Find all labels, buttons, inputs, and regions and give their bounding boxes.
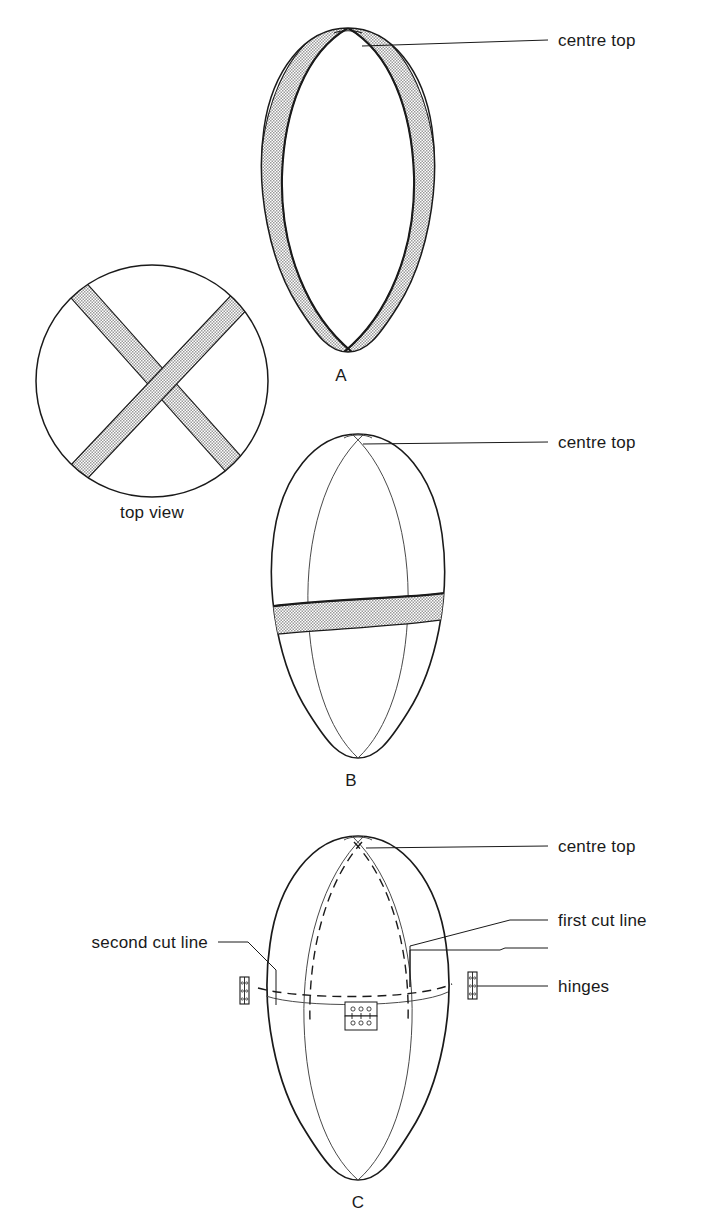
- top-view-bands: [64, 278, 256, 478]
- diagram-root: centre top A top view: [0, 0, 704, 1222]
- hinge-centre: [345, 1002, 377, 1030]
- leader-first-cut-line-horizontal: [410, 920, 510, 946]
- figure-c: centre top first cut line second cut lin…: [92, 836, 647, 1212]
- figure-a-caption: A: [335, 366, 347, 385]
- label-centre-top-c: centre top: [558, 837, 636, 856]
- hinge-right: [468, 972, 477, 999]
- hinge-left: [240, 977, 249, 1004]
- figure-c-caption: C: [352, 1193, 364, 1212]
- second-cut-line-dashed: [258, 984, 452, 997]
- label-first-cut-line: first cut line: [558, 911, 647, 930]
- figure-b: centre top B: [262, 433, 636, 790]
- meridian-left: [308, 434, 364, 758]
- first-cut-line-dashed-left: [310, 842, 362, 1022]
- egg-diagram-svg: centre top A top view: [0, 0, 704, 1222]
- leader-first-cut-line: [410, 948, 548, 987]
- label-top-view: top view: [120, 503, 184, 522]
- figure-top-view: top view: [36, 265, 268, 522]
- label-centre-top-b: centre top: [558, 433, 636, 452]
- figure-a-bands: [260, 26, 436, 352]
- label-hinges: hinges: [558, 977, 609, 996]
- label-centre-top-a: centre top: [558, 31, 636, 50]
- label-second-cut-line: second cut line: [92, 933, 208, 952]
- figure-a: centre top A: [260, 26, 636, 385]
- figure-b-caption: B: [345, 771, 356, 790]
